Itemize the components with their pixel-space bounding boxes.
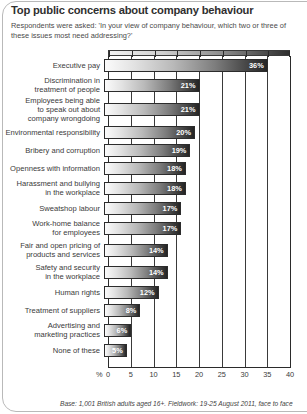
bar-row: Harassment and bullying in the workplace… — [0, 177, 307, 199]
category-label: Fair and open pricing of products and se… — [0, 241, 104, 259]
bar[interactable]: 19% — [104, 144, 190, 157]
category-label: Executive pay — [0, 61, 104, 70]
bar-track: 18% — [104, 159, 287, 177]
bar[interactable]: 17% — [104, 202, 181, 215]
bar[interactable]: 21% — [104, 103, 200, 116]
bar-track: 18% — [104, 177, 287, 199]
bar-row: Work-home balance for employees17% — [0, 217, 307, 239]
x-tick-35: 35 — [263, 370, 271, 379]
bar-row: Fair and open pricing of products and se… — [0, 239, 307, 261]
category-label: Advertising and marketing practices — [0, 321, 104, 339]
x-tick-10: 10 — [149, 370, 157, 379]
x-axis-tick-labels: % 0510152025303540 — [0, 370, 307, 384]
bar-row: Discrimination in treatment of people21% — [0, 74, 307, 96]
category-label: Employees being able to speak out about … — [0, 96, 104, 123]
bar-value-label: 36% — [249, 61, 267, 70]
bar[interactable]: 8% — [104, 304, 140, 317]
bar-value-label: 14% — [149, 268, 167, 277]
bar-track: 19% — [104, 141, 287, 159]
bar-value-label: 17% — [163, 204, 181, 213]
bar[interactable]: 5% — [104, 344, 127, 357]
bar-value-label: 18% — [167, 184, 185, 193]
bar-row: Advertising and marketing practices6% — [0, 319, 307, 341]
bar[interactable]: 21% — [104, 79, 200, 92]
bar-value-label: 18% — [167, 164, 185, 173]
bar-row: Treatment of suppliers8% — [0, 301, 307, 319]
category-label: Treatment of suppliers — [0, 306, 104, 315]
bar-track: 20% — [104, 123, 287, 141]
bar-value-label: 19% — [172, 146, 190, 155]
plot-area: Executive pay36%Discrimination in treatm… — [0, 44, 307, 369]
category-label: None of these — [0, 346, 104, 355]
chart-footnote: Base: 1,001 British adults aged 16+. Fie… — [60, 400, 302, 408]
x-tick-30: 30 — [240, 370, 248, 379]
bar-value-label: 17% — [163, 224, 181, 233]
bar-track: 21% — [104, 96, 287, 123]
bar-row: Employees being able to speak out about … — [0, 96, 307, 123]
category-label: Work-home balance for employees — [0, 219, 104, 237]
bar[interactable]: 14% — [104, 244, 168, 257]
bar-track: 12% — [104, 283, 287, 301]
bar-value-label: 20% — [176, 128, 194, 137]
x-tick-20: 20 — [195, 370, 203, 379]
bar[interactable]: 20% — [104, 126, 195, 139]
bar-value-label: 21% — [181, 105, 199, 114]
chart-figure: Top public concerns about company behavi… — [0, 0, 307, 414]
category-label: Discrimination in treatment of people — [0, 76, 104, 94]
bar[interactable]: 6% — [104, 324, 131, 337]
x-tick-40: 40 — [286, 370, 294, 379]
chart-title: Top public concerns about company behavi… — [11, 4, 299, 16]
bar-track: 14% — [104, 239, 287, 261]
x-axis-line — [108, 367, 291, 368]
bar-track: 6% — [104, 319, 287, 341]
bar-row: Bribery and corruption19% — [0, 141, 307, 159]
percent-symbol: % — [96, 370, 103, 379]
bar-value-label: 6% — [117, 326, 131, 335]
bar-track: 14% — [104, 261, 287, 283]
bar-track: 36% — [104, 56, 287, 74]
bar-row: Safety and security in the workplace14% — [0, 261, 307, 283]
bar-track: 8% — [104, 301, 287, 319]
category-label: Environmental responsibility — [0, 128, 104, 137]
x-tick-25: 25 — [218, 370, 226, 379]
category-label: Openness with information — [0, 164, 104, 173]
bar-track: 17% — [104, 199, 287, 217]
bar-row: None of these5% — [0, 341, 307, 359]
bar-value-label: 8% — [126, 306, 140, 315]
category-label: Bribery and corruption — [0, 146, 104, 155]
bar-track: 5% — [104, 341, 287, 359]
x-tick-5: 5 — [129, 370, 133, 379]
bar-value-label: 12% — [140, 288, 158, 297]
category-label: Harassment and bullying in the workplace — [0, 179, 104, 197]
bar-row: Human rights12% — [0, 283, 307, 301]
bar[interactable]: 36% — [104, 59, 268, 72]
bar[interactable]: 18% — [104, 182, 186, 195]
x-tick-0: 0 — [106, 370, 110, 379]
bar-value-label: 21% — [181, 81, 199, 90]
chart-subtitle: Respondents were asked: 'In your view of… — [11, 21, 301, 41]
bar-track: 17% — [104, 217, 287, 239]
bar-row: Executive pay36% — [0, 56, 307, 74]
x-tick-15: 15 — [172, 370, 180, 379]
bar[interactable]: 14% — [104, 266, 168, 279]
category-label: Human rights — [0, 288, 104, 297]
category-label: Safety and security in the workplace — [0, 263, 104, 281]
bar[interactable]: 18% — [104, 162, 186, 175]
bar-value-label: 5% — [112, 346, 126, 355]
bar-row: Openness with information18% — [0, 159, 307, 177]
bar-value-label: 14% — [149, 246, 167, 255]
bar[interactable]: 17% — [104, 222, 181, 235]
bar-row: Environmental responsibility20% — [0, 123, 307, 141]
bar-rows: Executive pay36%Discrimination in treatm… — [0, 56, 307, 359]
category-label: Sweatshop labour — [0, 204, 104, 213]
bar[interactable]: 12% — [104, 286, 159, 299]
bar-track: 21% — [104, 74, 287, 96]
bar-row: Sweatshop labour17% — [0, 199, 307, 217]
